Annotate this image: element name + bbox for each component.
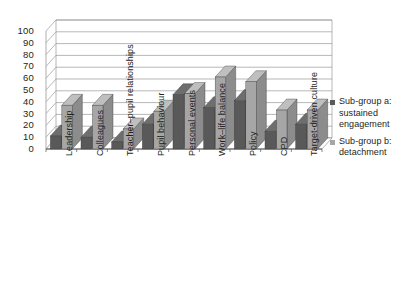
legend-label-sub-group-b: Sub-group b: detachment [339,136,392,159]
x-label-teacher-pupil-relationships: Teacher–pupil relationships [126,44,135,156]
x-label-pupil-behaviour: Pupil behaviour [157,92,166,156]
x-label-personal-events: Personal events [188,90,197,156]
legend-label-b-line2: detachment [339,147,387,157]
x-label-colleagues: Colleagues [96,110,105,156]
x-label-policy: Policy [249,131,258,156]
legend-swatch-sub-group-b [330,140,335,145]
legend-item-sub-group-b: Sub-group b: detachment [330,136,416,159]
chart-figure: 0102030405060708090100 LeadershipColleag… [0,0,416,289]
legend-item-sub-group-a: Sub-group a: sustained engagement [330,96,416,131]
x-label-leadership: Leadership [65,110,74,156]
legend-label-a-line1: Sub-group a: [339,96,392,106]
legend-label-a-line2: sustained [339,108,378,118]
legend-label-a-line3: engagement [339,119,390,129]
x-label-work-life-balance: Work–life balance [218,83,227,156]
legend-label-sub-group-a: Sub-group a: sustained engagement [339,96,392,131]
legend-label-b-line1: Sub-group b: [339,136,392,146]
x-label-cpd: CPD [280,137,289,156]
chart-legend: Sub-group a: sustained engagement Sub-gr… [330,96,416,164]
legend-swatch-sub-group-a [330,100,335,105]
x-label-target-driven-culture: Target-driven culture [310,72,319,156]
